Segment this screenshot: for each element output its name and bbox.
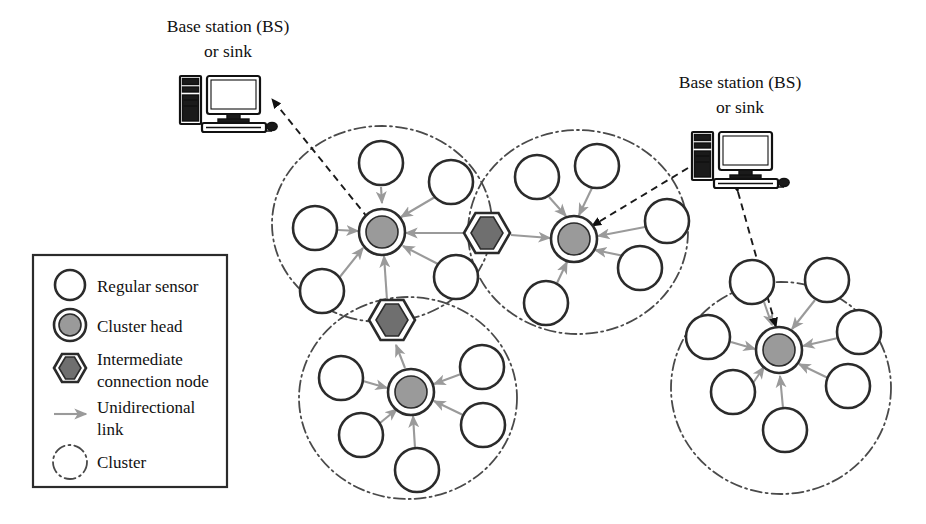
uni-link [557, 262, 567, 283]
uni-link [549, 197, 566, 216]
legend-label-unidirectional-2: link [97, 420, 124, 439]
legend-label-intermediate-node-2: connection node [97, 372, 209, 391]
regular-sensor-node[interactable] [686, 315, 730, 359]
cluster-head-icon [54, 309, 86, 341]
bs-left-label-line1: Base station (BS) [167, 16, 290, 36]
uni-link [401, 197, 435, 217]
regular-sensor-node[interactable] [826, 364, 870, 408]
uni-link [338, 230, 358, 231]
regular-sensor-node[interactable] [524, 281, 568, 325]
bs-left-label-line2: or sink [204, 41, 252, 61]
uni-link [579, 188, 592, 215]
cluster-head-node[interactable] [359, 209, 405, 255]
uni-link [764, 302, 772, 325]
regular-sensor-node[interactable] [300, 269, 344, 313]
regular-sensor-node[interactable] [645, 199, 689, 243]
wsn-topology-svg: Base station (BS) or sink Base station (… [0, 0, 926, 524]
base-station-right[interactable]: Base station (BS) or sink [679, 72, 802, 188]
uni-link [598, 227, 645, 236]
uni-link [434, 374, 461, 384]
legend-label-cluster: Cluster [97, 453, 146, 472]
regular-sensor-node[interactable] [763, 408, 807, 452]
regular-sensor-node[interactable] [575, 144, 619, 188]
legend-label-regular-sensor: Regular sensor [97, 277, 199, 296]
regular-sensor-node[interactable] [730, 260, 774, 304]
cluster-head-node[interactable] [388, 369, 434, 415]
uni-link [731, 342, 755, 349]
regular-sensor-node[interactable] [515, 155, 559, 199]
intermediate-node-icon [54, 354, 86, 382]
bs-right-label-line1: Base station (BS) [679, 72, 802, 92]
legend-label-intermediate-node-1: Intermediate [97, 350, 183, 369]
regular-sensor-node[interactable] [434, 255, 478, 299]
regular-sensor-node[interactable] [837, 310, 881, 354]
uni-link [753, 367, 764, 383]
regular-sensor-node[interactable] [461, 403, 505, 447]
uni-link-ch-to-icn [384, 256, 387, 300]
uni-link [434, 401, 463, 415]
regular-sensor-node[interactable] [319, 356, 363, 400]
regular-sensor-node[interactable] [805, 258, 849, 302]
uni-link-ch-to-icn [396, 345, 405, 368]
regular-sensor-node[interactable] [359, 141, 403, 185]
base-station-left[interactable]: Base station (BS) or sink [167, 16, 290, 132]
uni-link [799, 364, 828, 378]
legend-label-cluster-head: Cluster head [97, 317, 183, 336]
regular-sensor-node[interactable] [339, 413, 383, 457]
cluster-head-node[interactable] [756, 327, 802, 373]
regular-sensor-icon [55, 270, 85, 300]
bs-link-left [272, 99, 368, 218]
regular-sensor-node[interactable] [618, 246, 662, 290]
regular-sensor-node[interactable] [395, 448, 439, 492]
uni-link [380, 409, 397, 423]
uni-link [403, 246, 438, 264]
regular-sensor-node[interactable] [460, 345, 504, 389]
uni-link [381, 187, 382, 203]
desktop-computer-icon [180, 76, 277, 132]
uni-link [792, 300, 815, 329]
cluster-head-node[interactable] [551, 216, 597, 262]
intermediate-connection-node[interactable] [369, 300, 415, 340]
network-diagram: Base station (BS) or sink Base station (… [0, 0, 926, 524]
uni-link [595, 250, 624, 256]
uni-link [803, 338, 838, 346]
regular-sensor-node[interactable] [429, 160, 473, 204]
intermediate-connection-node[interactable] [464, 213, 510, 253]
legend-label-unidirectional-1: Unidirectional [97, 398, 195, 417]
uni-link-icn-to-ch [511, 235, 550, 238]
desktop-computer-icon [692, 132, 789, 188]
uni-link [413, 416, 415, 448]
uni-link [339, 248, 363, 278]
uni-link [780, 376, 783, 408]
legend: Regular sensor Cluster head Intermediate… [33, 255, 227, 487]
regular-sensor-node[interactable] [711, 370, 755, 414]
regular-sensor-node[interactable] [293, 206, 337, 250]
uni-link [363, 381, 387, 388]
bs-right-label-line2: or sink [716, 97, 764, 117]
